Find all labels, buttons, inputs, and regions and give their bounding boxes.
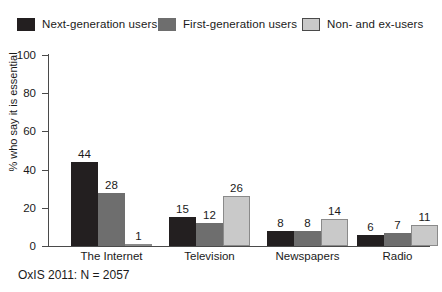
- bar-column: 7: [384, 55, 411, 246]
- bar-value-label: 1: [125, 230, 152, 242]
- legend-item-label: Next-generation users: [42, 18, 157, 30]
- bar-column: 6: [357, 55, 384, 246]
- bar-group: 151226: [169, 55, 250, 246]
- bar-value-label: 7: [384, 219, 411, 231]
- y-axis-tick-label: 0: [30, 240, 36, 252]
- y-axis-tick-label: 40: [23, 164, 36, 176]
- bar: [71, 162, 98, 246]
- chart-figure: Next-generation usersFirst-generation us…: [0, 0, 442, 292]
- bar-value-label: 15: [169, 203, 196, 215]
- bar-column: 12: [196, 55, 223, 246]
- bar-column: 15: [169, 55, 196, 246]
- bar-column: 11: [411, 55, 438, 246]
- y-axis-tick-label: 20: [23, 202, 36, 214]
- bar-value-label: 14: [321, 205, 348, 217]
- legend-item: First-generation users: [158, 10, 297, 38]
- plot-area: 4428115122688146711: [49, 55, 429, 246]
- legend-item-label: First-generation users: [183, 18, 297, 30]
- bar-column: 8: [294, 55, 321, 246]
- bar-column: 44: [71, 55, 98, 246]
- bar-column: 14: [321, 55, 348, 246]
- bar: [384, 233, 411, 246]
- y-axis-tick-label: 80: [23, 87, 36, 99]
- bar: [267, 231, 294, 246]
- bar-value-label: 12: [196, 209, 223, 221]
- x-axis-tick-label: The Internet: [80, 250, 142, 262]
- bar: [357, 235, 384, 246]
- bar: [196, 223, 223, 246]
- bar-column: 28: [98, 55, 125, 246]
- bar-group: 44281: [71, 55, 152, 246]
- y-axis-tick-label: 60: [23, 125, 36, 137]
- x-axis-line: [48, 246, 430, 247]
- y-axis: % who say it is essential 020406080100: [0, 0, 49, 292]
- legend-item: Non- and ex-users: [302, 10, 423, 38]
- legend-swatch-icon: [302, 18, 320, 31]
- bar: [223, 196, 250, 246]
- bar-group: 8814: [267, 55, 348, 246]
- legend-swatch-icon: [158, 18, 176, 31]
- bar: [294, 231, 321, 246]
- bar: [125, 244, 152, 246]
- x-axis-tick-label: Radio: [382, 250, 412, 262]
- legend-item-label: Non- and ex-users: [327, 18, 423, 30]
- x-axis-tick-label: Newspapers: [276, 250, 340, 262]
- x-axis-tick-label: Television: [184, 250, 235, 262]
- chart-legend: Next-generation usersFirst-generation us…: [0, 10, 442, 38]
- bar-value-label: 6: [357, 221, 384, 233]
- bar-value-label: 8: [267, 217, 294, 229]
- bar-column: 26: [223, 55, 250, 246]
- bar-value-label: 11: [411, 211, 438, 223]
- chart-footnote: OxIS 2011: N = 2057: [18, 268, 130, 282]
- bar-value-label: 8: [294, 217, 321, 229]
- bar: [321, 219, 348, 246]
- bar: [169, 217, 196, 246]
- bar-value-label: 28: [98, 179, 125, 191]
- bar: [411, 225, 438, 246]
- bar-value-label: 26: [223, 182, 250, 194]
- bar: [98, 193, 125, 246]
- bar-group: 6711: [357, 55, 438, 246]
- bar-column: 1: [125, 55, 152, 246]
- y-axis-tick-label: 100: [17, 49, 36, 61]
- bar-column: 8: [267, 55, 294, 246]
- bar-value-label: 44: [71, 148, 98, 160]
